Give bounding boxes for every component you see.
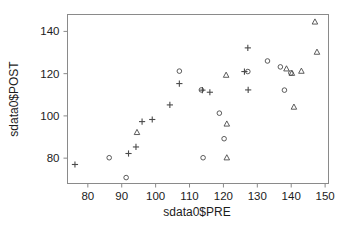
x-tick-label: 90	[115, 190, 128, 202]
x-tick-label: 110	[180, 190, 198, 202]
y-axis-title: sdata0$POST	[7, 61, 21, 137]
x-tick-label: 100	[146, 190, 165, 202]
y-tick-label: 100	[40, 110, 59, 122]
y-tick-label: 80	[47, 152, 60, 164]
scatter-plot-figure: 8090100110120130140150 80100120140 sdata…	[0, 0, 351, 233]
plot-canvas: 8090100110120130140150 80100120140 sdata…	[0, 0, 351, 233]
y-tick-label: 120	[40, 68, 59, 80]
x-axis-title: sdata0$PRE	[163, 205, 230, 219]
x-tick-label: 120	[214, 190, 233, 202]
x-tick-label: 150	[316, 190, 335, 202]
y-tick-label: 140	[40, 25, 59, 37]
x-tick-label: 130	[248, 190, 267, 202]
x-tick-label: 80	[81, 190, 94, 202]
x-tick-label: 140	[282, 190, 301, 202]
